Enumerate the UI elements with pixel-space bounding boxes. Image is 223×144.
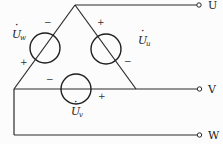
source-u-annotation: · U u + −: [97, 17, 151, 66]
wires: [14, 5, 197, 135]
source-v-plus: +: [98, 91, 106, 101]
source-u-plus: +: [97, 17, 105, 27]
source-u-subscript: u: [146, 40, 151, 48]
source-w-plus: +: [20, 57, 28, 67]
source-v-annotation: · U v − +: [46, 74, 106, 119]
source-v-subscript: v: [79, 111, 83, 119]
source-w-minus: −: [44, 17, 52, 27]
voltage-source-u: [91, 34, 121, 64]
circuit-canvas: U V W · U w − + · U u + − · U v − +: [0, 0, 223, 144]
terminal-u-label: U: [208, 0, 217, 12]
terminal-w-icon: [197, 133, 201, 137]
source-w-subscript: w: [20, 34, 26, 42]
source-u-minus: −: [124, 56, 132, 66]
terminal-u-icon: [197, 3, 201, 7]
terminal-v-label: V: [207, 83, 217, 96]
delta-circuit-diagram: U V W · U w − + · U u + − · U v − +: [0, 0, 223, 144]
voltage-source-w: [30, 33, 60, 63]
terminal-v-icon: [197, 87, 201, 91]
terminal-w-label: W: [208, 129, 220, 142]
source-v-minus: −: [46, 74, 54, 84]
